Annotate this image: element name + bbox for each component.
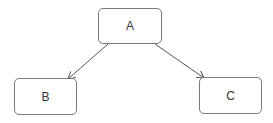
node-a-label: A [126, 19, 134, 33]
node-c: C [199, 77, 262, 114]
node-b: B [14, 78, 77, 115]
edge-a-to-c [155, 44, 204, 78]
node-c-label: C [226, 89, 235, 103]
edge-a-to-b [68, 44, 108, 79]
node-a: A [98, 8, 162, 44]
node-b-label: B [41, 90, 49, 104]
